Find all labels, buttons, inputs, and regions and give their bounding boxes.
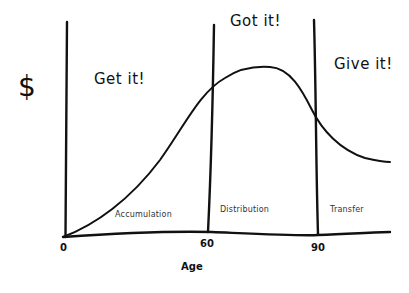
x-tick-60: 60 (200, 238, 214, 249)
y-axis-label: $ (18, 70, 36, 103)
divider-line-90 (314, 20, 318, 234)
slogan-give-it: Give it! (334, 55, 393, 73)
x-tick-90: 90 (311, 242, 325, 253)
phase-distribution-label: Distribution (220, 205, 269, 214)
x-tick-0: 0 (60, 242, 67, 253)
y-axis-line (66, 22, 68, 237)
slogan-get-it: Get it! (94, 70, 145, 88)
slogan-got-it: Got it! (230, 12, 281, 30)
phase-transfer-label: Transfer (330, 205, 364, 214)
divider-line-60 (208, 25, 214, 232)
x-axis-title: Age (181, 261, 203, 272)
phase-accumulation-label: Accumulation (115, 210, 172, 219)
x-axis-line (63, 232, 390, 237)
